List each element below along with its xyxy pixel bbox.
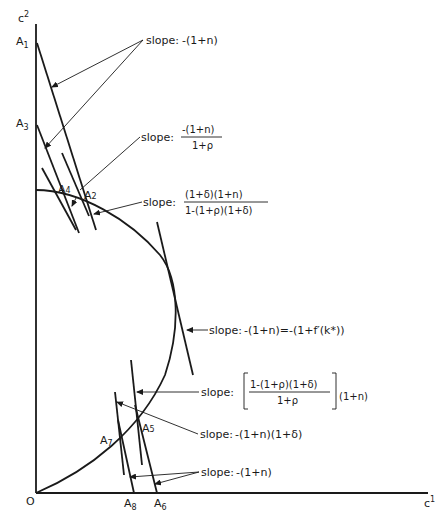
- annotation-slope3-denominator: 1-(1+ρ)(1+δ): [185, 205, 253, 216]
- point-label-A3: A3: [16, 117, 29, 132]
- origin-label: O: [26, 495, 35, 508]
- transformation-curve: [36, 190, 176, 493]
- annotation-slope1: slope:-(1+n): [146, 34, 218, 47]
- leader-slope2: [80, 137, 140, 190]
- y-axis-label: c2: [18, 10, 29, 25]
- annotation-slope5-numerator: 1-(1+ρ)(1+δ): [250, 379, 318, 390]
- leader-slope1-b: [45, 40, 143, 148]
- leader-slope1-a: [52, 40, 143, 87]
- annotation-slope7: slope:-(1+n): [201, 466, 272, 479]
- point-label-A5: A5: [142, 422, 155, 435]
- annotation-slope2-denominator: 1+ρ: [192, 140, 213, 151]
- annotation-slope5-suffix: (1+n): [339, 391, 368, 402]
- point-label-A4: A4: [58, 183, 71, 196]
- annotation-slope5-bracket-left: [244, 373, 248, 409]
- annotation-slope6: slope:-(1+n)(1+δ): [200, 428, 302, 441]
- annotation-slope5-denominator: 1+ρ: [277, 395, 298, 406]
- annotation-slope2-numerator: -(1+n): [182, 124, 215, 135]
- leader-slope3-inner: [72, 198, 76, 206]
- point-label-A1: A1: [16, 35, 29, 50]
- annotation-slope3-prefix: slope:: [143, 196, 176, 209]
- point-label-A6: A6: [154, 497, 167, 512]
- annotation-slope3-numerator: (1+δ)(1+n): [185, 189, 243, 200]
- line-A6: [135, 405, 157, 493]
- annotation-slope4: slope:-(1+n)=-(1+f′(k*)): [209, 324, 345, 337]
- annotation-slope2-prefix: slope:: [141, 131, 174, 144]
- line-A4-tangent: [42, 168, 76, 230]
- annotation-slope5-bracket-right: [332, 373, 336, 409]
- point-label-A2: A2: [84, 189, 97, 202]
- point-label-A7: A7: [100, 434, 113, 448]
- point-label-A8: A8: [124, 497, 137, 512]
- diagram-canvas: c2 c1 O A1 A3 A4 A2 A5 A7 A8 A6 slope:-(…: [0, 0, 447, 517]
- x-axis-label: c1: [424, 495, 435, 510]
- line-steady-tangent: [157, 222, 193, 375]
- annotation-slope5-prefix: slope:: [201, 386, 234, 399]
